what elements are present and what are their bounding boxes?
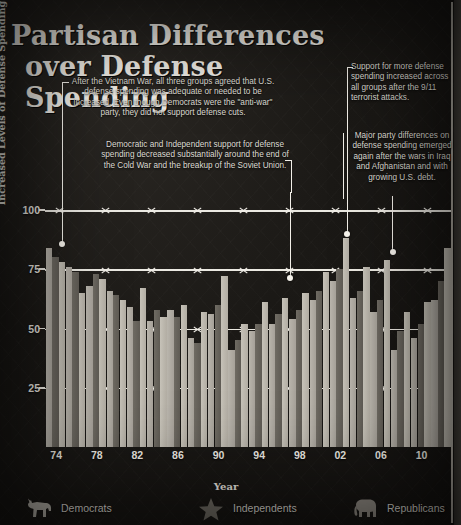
bar-group-92	[228, 210, 248, 447]
x-tick-label-10: 10	[416, 449, 428, 461]
bar-democrats-00	[310, 300, 316, 447]
chart-plot-area: 255075100 74788286909498020610	[45, 210, 451, 447]
elephant-icon	[350, 495, 380, 521]
x-tick-label-02: 02	[335, 449, 347, 461]
annotation-iraq-bracket	[343, 133, 344, 199]
x-tick-label-06: 06	[375, 449, 387, 461]
bar-republicans-84	[160, 317, 166, 447]
bar-republicans-74	[59, 262, 65, 447]
y-axis-label: % of Respondents Who Support Existing or…	[0, 0, 8, 228]
bar-democrats-06	[370, 312, 376, 447]
legend-item-independents: Independents	[196, 495, 297, 521]
bar-independents-84	[154, 310, 160, 447]
annotation-iraq-afghanistan: Major party differences on defense spend…	[346, 131, 458, 183]
legend-label-republicans: Republicans	[387, 502, 445, 514]
bar-independents-06	[377, 300, 383, 447]
right-edge-strip	[454, 0, 461, 525]
bar-republicans-90	[221, 276, 227, 447]
annotation-post-vietnam: After the Vietnam War, all three groups …	[66, 77, 280, 119]
bar-democrats-84	[147, 321, 153, 447]
y-tick-mark-50	[39, 328, 45, 330]
y-tick-mark-75	[39, 268, 45, 270]
y-tick-mark-100	[39, 209, 45, 211]
bar-democrats-10	[411, 338, 417, 447]
annotation-cold-war-bracket	[285, 160, 292, 193]
bar-independents-02	[336, 269, 342, 447]
bar-republicans-00	[323, 272, 329, 447]
bar-group-80	[107, 210, 127, 447]
bar-republicans-04	[363, 267, 369, 447]
x-tick-label-82: 82	[132, 449, 144, 461]
bar-republicans-92	[241, 324, 247, 447]
bar-group-82	[127, 210, 147, 447]
bar-independents-78	[93, 274, 99, 447]
bar-independents-12	[438, 281, 444, 447]
bar-independents-10	[418, 324, 424, 447]
bar-independents-86	[174, 317, 180, 447]
bar-republicans-10	[424, 302, 430, 447]
bar-group-94	[249, 210, 269, 447]
annotation-post-911-bracket	[347, 67, 353, 118]
x-tick-label-74: 74	[50, 449, 62, 461]
bar-republicans-88	[201, 312, 207, 447]
bar-republicans-08	[404, 312, 410, 447]
bar-group-78	[86, 210, 106, 447]
legend-label-democrats: Democrats	[61, 502, 112, 514]
legend-item-republicans: Republicans	[350, 495, 445, 521]
bar-group-98	[289, 210, 309, 447]
bar-democrats-82	[127, 307, 133, 447]
bar-democrats-78	[86, 286, 92, 447]
bar-group-02	[330, 210, 350, 447]
bar-group-74	[46, 210, 66, 447]
bar-independents-96	[275, 314, 281, 447]
x-tick-label-90: 90	[213, 449, 225, 461]
annotation-post-vietnam-bracket	[62, 82, 69, 117]
annotation-post-911: Support for more defense spending increa…	[351, 62, 455, 104]
star-icon	[196, 495, 226, 521]
bar-independents-04	[357, 291, 363, 447]
bar-democrats-02	[330, 281, 336, 447]
bar-independents-76	[72, 272, 78, 447]
bar-republicans-02	[343, 238, 349, 447]
legend-item-democrats: Democrats	[24, 495, 112, 521]
bar-independents-88	[194, 343, 200, 447]
bar-group-00	[310, 210, 330, 447]
x-axis-label: Year	[0, 481, 452, 492]
y-tick-mark-25	[39, 387, 45, 389]
bar-democrats-86	[167, 310, 173, 447]
bar-democrats-76	[66, 267, 72, 447]
bar-republicans-82	[140, 288, 146, 447]
bar-group-84	[147, 210, 167, 447]
bar-democrats-96	[269, 324, 275, 447]
bar-independents-90	[215, 305, 221, 447]
bar-independents-00	[316, 291, 322, 447]
bar-democrats-88	[188, 338, 194, 447]
bar-republicans-94	[262, 302, 268, 447]
bar-group-88	[188, 210, 208, 447]
bar-independents-98	[296, 310, 302, 447]
bar-group-04	[350, 210, 370, 447]
bar-group-96	[269, 210, 289, 447]
bar-democrats-04	[350, 298, 356, 447]
bar-group-10	[411, 210, 431, 447]
title-line-1: Partisan Differences	[11, 20, 325, 51]
bar-republicans-86	[181, 305, 187, 447]
x-tick-label-86: 86	[172, 449, 184, 461]
bar-republicans-78	[99, 279, 105, 447]
bar-democrats-94	[249, 331, 255, 447]
bar-group-06	[370, 210, 390, 447]
annotation-cold-war-end: Democratic and Independent support for d…	[100, 140, 290, 171]
bar-republicans-98	[302, 293, 308, 447]
bar-independents-82	[133, 321, 139, 447]
bar-group-86	[167, 210, 187, 447]
x-tick-label-98: 98	[294, 449, 306, 461]
bar-independents-08	[397, 331, 403, 447]
bar-independents-80	[113, 295, 119, 447]
bar-democrats-74	[46, 248, 52, 447]
legend-label-independents: Independents	[233, 502, 297, 514]
bar-democrats-12	[431, 300, 437, 447]
bar-republicans-06	[384, 260, 390, 447]
bar-democrats-80	[107, 291, 113, 447]
bar-independents-92	[235, 340, 241, 447]
bar-group-08	[391, 210, 411, 447]
